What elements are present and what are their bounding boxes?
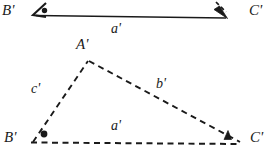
vertex-label-a-prime: A' xyxy=(76,37,88,52)
angle-dot-mark-b-prime xyxy=(41,131,48,138)
top-base-segment-group xyxy=(33,2,228,19)
top-vertex-label-b-prime: B' xyxy=(2,3,14,18)
triangle-side-c-prime xyxy=(33,61,88,142)
triangle-angle-marks-group xyxy=(41,131,232,140)
vertex-label-c-prime: C' xyxy=(250,130,263,145)
triangle-edges-group xyxy=(31,61,241,144)
angle-triangle-mark-c-prime xyxy=(224,131,232,140)
top-segment-label-a-prime: a' xyxy=(111,22,121,36)
top-angle-dot-mark-b-prime xyxy=(42,8,47,13)
side-label-c-prime: c' xyxy=(31,82,40,96)
side-label-b-prime: b' xyxy=(156,77,166,91)
geometry-figure xyxy=(0,0,277,165)
top-vertex-label-c-prime: C' xyxy=(249,3,262,18)
top-arrowhead-c-prime xyxy=(214,6,228,19)
vertex-label-b-prime: B' xyxy=(4,130,16,145)
triangle-side-a-prime xyxy=(31,143,241,145)
side-label-a-prime: a' xyxy=(111,119,121,133)
top-base-segment-line xyxy=(36,16,226,19)
